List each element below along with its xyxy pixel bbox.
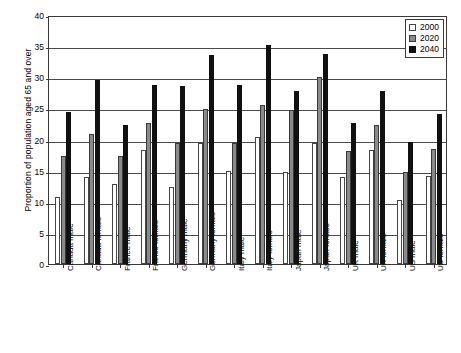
- x-tick-mark: [377, 264, 378, 268]
- legend-item: 2040: [409, 44, 439, 55]
- bar-2000: [226, 171, 231, 264]
- x-tick-mark: [120, 264, 121, 268]
- bar-2000: [112, 184, 117, 264]
- bars-layer: [49, 17, 446, 264]
- legend-item: 2000: [409, 22, 439, 33]
- bar-2040: [380, 91, 385, 264]
- y-tick-label: 15: [8, 167, 48, 177]
- y-tick-label: 25: [8, 104, 48, 114]
- bar-2020: [403, 172, 408, 264]
- bar-2040: [95, 80, 100, 264]
- bar-2020: [203, 109, 208, 264]
- bar-group: [220, 17, 249, 264]
- bar-group: [249, 17, 278, 264]
- bar-2040: [351, 123, 356, 264]
- bar-2020: [346, 151, 351, 264]
- bar-2040: [266, 45, 271, 264]
- bar-2040: [294, 91, 299, 264]
- bar-2000: [84, 177, 89, 264]
- x-tick-mark: [434, 264, 435, 268]
- x-tick-mark: [320, 264, 321, 268]
- legend-swatch-2000-icon: [409, 24, 416, 31]
- legend: 2000 2020 2040: [405, 19, 444, 58]
- bar-2040: [437, 114, 442, 264]
- bar-2020: [260, 105, 265, 264]
- bar-2020: [118, 156, 123, 264]
- bar-2020: [431, 149, 436, 264]
- y-tick-label: 10: [8, 198, 48, 208]
- y-tick-label: 20: [8, 136, 48, 146]
- bar-2020: [232, 143, 237, 264]
- bar-2040: [408, 142, 413, 264]
- bar-2000: [397, 200, 402, 264]
- bar-2020: [175, 143, 180, 264]
- legend-swatch-2020-icon: [409, 35, 416, 42]
- bar-group: [277, 17, 306, 264]
- x-tick-mark: [92, 264, 93, 268]
- legend-label: 2020: [420, 34, 439, 43]
- x-tick-mark: [149, 264, 150, 268]
- bar-2000: [283, 172, 288, 264]
- legend-label: 2000: [420, 23, 439, 32]
- legend-label: 2040: [420, 45, 439, 54]
- bar-2000: [198, 143, 203, 264]
- plot-area: 2000 2020 2040: [48, 16, 447, 265]
- bar-2000: [369, 150, 374, 264]
- bar-group: [334, 17, 363, 264]
- x-tick-mark: [63, 264, 64, 268]
- x-tick-mark: [206, 264, 207, 268]
- bar-2000: [169, 187, 174, 264]
- y-tick-label: 0: [8, 260, 48, 270]
- x-tick-mark: [234, 264, 235, 268]
- bar-2000: [55, 197, 60, 264]
- bar-2040: [237, 85, 242, 264]
- bar-2020: [61, 156, 66, 264]
- bar-2020: [374, 125, 379, 264]
- x-tick-mark: [263, 264, 264, 268]
- bar-group: [363, 17, 392, 264]
- legend-item: 2020: [409, 33, 439, 44]
- bar-2040: [152, 85, 157, 264]
- bar-2040: [323, 54, 328, 264]
- legend-swatch-2040-icon: [409, 46, 416, 53]
- bar-2040: [209, 55, 214, 264]
- bar-2040: [180, 86, 185, 264]
- bar-2020: [317, 77, 322, 264]
- y-tick-label: 5: [8, 229, 48, 239]
- bar-chart: Proportion of population aged 65 and ove…: [0, 0, 461, 353]
- x-tick-mark: [348, 264, 349, 268]
- bar-2000: [141, 150, 146, 264]
- bar-2000: [426, 176, 431, 264]
- bar-2040: [123, 125, 128, 264]
- bar-2020: [289, 110, 294, 264]
- x-tick-mark: [177, 264, 178, 268]
- y-tick-label: 35: [8, 42, 48, 52]
- bar-2000: [312, 143, 317, 264]
- x-tick-mark: [291, 264, 292, 268]
- bar-2020: [146, 123, 151, 264]
- bar-2040: [66, 112, 71, 264]
- y-tick-label: 40: [8, 11, 48, 21]
- bar-2000: [340, 177, 345, 264]
- y-tick-label: 30: [8, 73, 48, 83]
- bar-2000: [255, 137, 260, 264]
- bar-2020: [89, 134, 94, 264]
- x-tick-mark: [405, 264, 406, 268]
